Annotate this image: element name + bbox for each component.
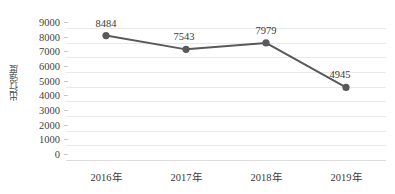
data-point-marker <box>102 32 109 39</box>
x-axis-tick-labels: 2016年2017年2018年2019年 <box>66 165 386 187</box>
data-point-marker <box>262 39 269 46</box>
series-line <box>106 36 346 88</box>
y-axis-tick-label: 5000 <box>39 75 60 86</box>
y-axis-tick-mark <box>64 22 68 23</box>
y-axis-title-label: 出行强度 <box>9 65 18 101</box>
data-point-label: 7543 <box>174 31 195 42</box>
x-axis-tick-label: 2018年 <box>251 169 282 184</box>
data-point-marker <box>342 84 349 91</box>
y-axis-tick-label: 3000 <box>39 105 60 116</box>
y-axis-tick-labels: 9000800070006000500040003000200010000 <box>20 22 64 166</box>
y-axis-tick-label: 0 <box>55 149 60 160</box>
line-chart: 出行强度 90008000700060005000400030002000100… <box>0 0 395 194</box>
y-axis-tick-label: 2000 <box>39 119 60 130</box>
data-point-label: 4945 <box>330 69 351 80</box>
data-point-marker <box>182 46 189 53</box>
y-axis-tick-label: 7000 <box>39 46 60 57</box>
y-axis-tick-label: 1000 <box>39 134 60 145</box>
y-axis-tick-label: 9000 <box>39 17 60 28</box>
series-line-out-of-travel-intensity <box>66 28 386 160</box>
y-axis-tick-label: 4000 <box>39 90 60 101</box>
plot-area: 8484754379794945 <box>66 28 386 160</box>
x-axis-tick-label: 2016年 <box>91 169 122 184</box>
x-axis-tick-label: 2019年 <box>331 169 362 184</box>
gridline <box>66 160 386 161</box>
y-axis-tick-label: 8000 <box>39 31 60 42</box>
x-axis-tick-label: 2017年 <box>171 169 202 184</box>
data-point-label: 7979 <box>256 25 277 36</box>
data-point-label: 8484 <box>96 18 117 29</box>
y-axis-tick-label: 6000 <box>39 61 60 72</box>
